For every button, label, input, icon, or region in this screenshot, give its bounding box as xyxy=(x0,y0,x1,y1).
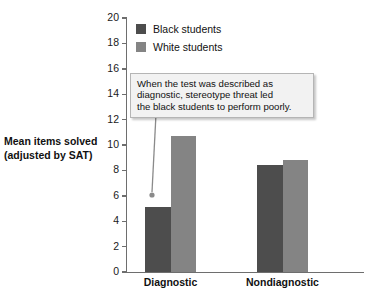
annotation-callout-text: When the test was described as diagnosti… xyxy=(137,78,307,112)
legend-swatch-white-students xyxy=(136,42,146,52)
y-axis-tick-label: 12 xyxy=(107,113,119,126)
y-axis-tick-label: 18 xyxy=(107,36,119,49)
annotation-callout: When the test was described as diagnosti… xyxy=(130,73,314,118)
y-axis-title: Mean items solved (adjusted by SAT) xyxy=(4,134,108,162)
annotation-line-2: diagnostic, stereotype threat led xyxy=(137,89,307,100)
y-axis-tick-label: 8 xyxy=(113,163,119,176)
bar-diagnostic-black xyxy=(145,207,171,272)
chart-legend: Black students White students xyxy=(136,21,222,57)
x-axis-label-nondiagnostic: Nondiagnostic xyxy=(233,276,333,288)
y-axis-tick-label: 4 xyxy=(113,214,119,227)
legend-swatch-black-students xyxy=(136,24,146,34)
bar-chart-figure: Mean items solved (adjusted by SAT) 0246… xyxy=(0,0,369,301)
legend-label-black-students: Black students xyxy=(153,23,221,35)
y-axis-tick-label: 6 xyxy=(113,189,119,202)
annotation-line-1: When the test was described as xyxy=(137,78,307,89)
y-axis-title-line-1: Mean items solved xyxy=(4,134,108,148)
legend-item-white-students: White students xyxy=(136,39,222,55)
y-axis-tick-label: 10 xyxy=(107,138,119,151)
y-axis-tick-label: 0 xyxy=(113,265,119,278)
annotation-line-3: the black students to perform poorly. xyxy=(137,101,307,112)
bar-diagnostic-white xyxy=(171,136,197,272)
y-axis-title-line-2: (adjusted by SAT) xyxy=(4,148,108,162)
bar-nondiagnostic-black xyxy=(257,165,283,272)
legend-item-black-students: Black students xyxy=(136,21,222,37)
y-axis-tick-label: 16 xyxy=(107,62,119,75)
legend-label-white-students: White students xyxy=(153,41,222,53)
x-axis-label-diagnostic: Diagnostic xyxy=(121,276,221,288)
y-axis-tick-label: 2 xyxy=(113,240,119,253)
bar-nondiagnostic-white xyxy=(283,160,309,272)
x-axis-line xyxy=(126,272,364,273)
y-axis-tick-label: 14 xyxy=(107,87,119,100)
y-axis-tick-label: 20 xyxy=(107,11,119,24)
